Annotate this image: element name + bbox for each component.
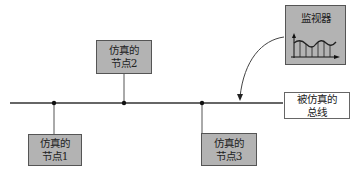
node1-box: 仿真的 节点1 <box>28 134 82 166</box>
node2-label-line1: 仿真的 <box>109 44 139 57</box>
node2-box: 仿真的 节点2 <box>96 40 152 74</box>
node3-box: 仿真的 节点3 <box>201 133 257 166</box>
bus-label-box: 被仿真的 总线 <box>284 92 350 119</box>
node2-junction <box>122 101 126 105</box>
bus-label-line2: 总线 <box>307 106 327 119</box>
arrow-head-icon <box>237 94 243 101</box>
node2-label-line2: 节点2 <box>111 57 138 70</box>
node3-label-line1: 仿真的 <box>214 137 244 150</box>
monitor-arrow <box>240 37 284 97</box>
node1-junction <box>52 101 56 105</box>
node1-label-line1: 仿真的 <box>40 137 70 150</box>
node1-label-line2: 节点1 <box>42 150 69 163</box>
bus-label-line1: 被仿真的 <box>297 93 337 106</box>
node3-label-line2: 节点3 <box>216 150 243 163</box>
monitor-box: 监视器 <box>285 5 346 65</box>
node3-junction <box>200 101 204 105</box>
waveform-chart-icon <box>286 6 345 64</box>
